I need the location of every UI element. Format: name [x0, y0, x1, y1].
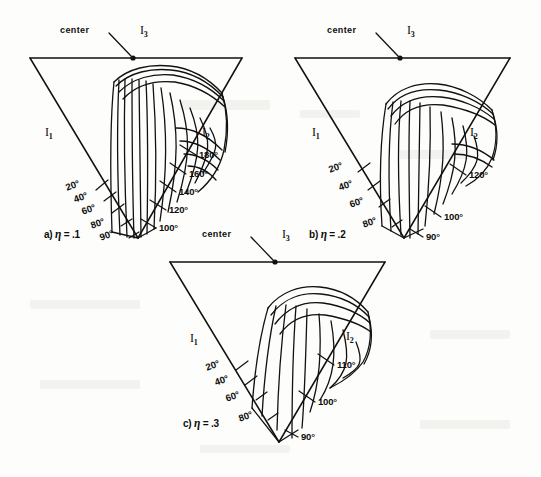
- panel-a-tick-right-4: 100°: [159, 223, 178, 233]
- panel-a-caption-value: = .1: [64, 229, 80, 240]
- panel-a-caption-eta: η: [55, 228, 61, 240]
- panel-a-axis-i3: I3: [140, 24, 148, 39]
- panel-b-caption: b) η = .2: [309, 229, 346, 241]
- panel-c-tick-right-1: 100°: [318, 397, 337, 407]
- panel-a-caption: a) η = .1: [44, 229, 80, 241]
- panel-b-tick-right-0: 120°: [469, 170, 488, 180]
- panel-c-axis-i1-sub: 1: [194, 338, 198, 347]
- panel-b-axis-i3-sub: 3: [411, 30, 415, 39]
- panel-b-caption-prefix: b): [309, 229, 318, 240]
- panel-a-axis-i3-sub: 3: [144, 30, 148, 39]
- panel-a-axis-i1: I1: [45, 126, 53, 141]
- panel-b-tick-right-2: 90°: [426, 232, 440, 242]
- panel-b-axis-i2: I2: [470, 126, 478, 141]
- panel-a-axis-i1-sub: 1: [49, 132, 53, 141]
- panel-c-axis-i3-sub: 3: [286, 234, 290, 243]
- panel-a-axis-i2-sub: 2: [206, 132, 210, 141]
- panel-b-center-marker: [376, 33, 403, 61]
- panel-c-axis-i3: I3: [282, 228, 290, 243]
- panel-b-tick-right-1: 100°: [444, 212, 463, 222]
- panel-c-caption-prefix: c): [183, 418, 192, 429]
- panel-b-caption-eta: η: [321, 228, 327, 240]
- panel-c-center-label: center: [202, 230, 231, 239]
- panel-b-axis-i1: I1: [312, 126, 320, 141]
- panel-c-caption-value: = .3: [203, 418, 219, 429]
- panel-c-caption-eta: η: [194, 417, 200, 429]
- panel-b-caption-value: = .2: [329, 229, 345, 240]
- panel-c-tick-right-0: 110°: [337, 360, 355, 370]
- panel-c-axis-i1: I1: [190, 332, 198, 347]
- figure-svg: [0, 0, 541, 477]
- panel-a-center-marker: [109, 33, 136, 61]
- panel-c-axis-i2-sub: 2: [350, 336, 354, 345]
- panel-b-axis-i2-sub: 2: [474, 132, 478, 141]
- panel-a-axis-i2: I2: [202, 126, 210, 141]
- panel-a-tick-right-2: 140°: [179, 187, 198, 197]
- figure-root: center I3 I1 I2 20° 40° 60° 80° 90° 180°…: [0, 0, 541, 477]
- panel-a-center-label: center: [60, 26, 89, 35]
- panel-b-axis-i3: I3: [407, 24, 415, 39]
- panel-a-tick-right-0: 180°: [199, 150, 218, 160]
- panel-b-center-label: center: [327, 26, 356, 35]
- panel-c-axis-i2: I2: [346, 330, 354, 345]
- panel-a-caption-prefix: a): [44, 229, 53, 240]
- panel-c-center-marker: [251, 237, 278, 265]
- panel-a-tick-right-3: 120°: [169, 205, 188, 215]
- panel-c-tick-right-2: 90°: [301, 432, 315, 442]
- panel-b-axis-i1-sub: 1: [316, 132, 320, 141]
- panel-c-caption: c) η = .3: [183, 418, 219, 430]
- panel-a-tick-right-1: 160°: [189, 169, 208, 179]
